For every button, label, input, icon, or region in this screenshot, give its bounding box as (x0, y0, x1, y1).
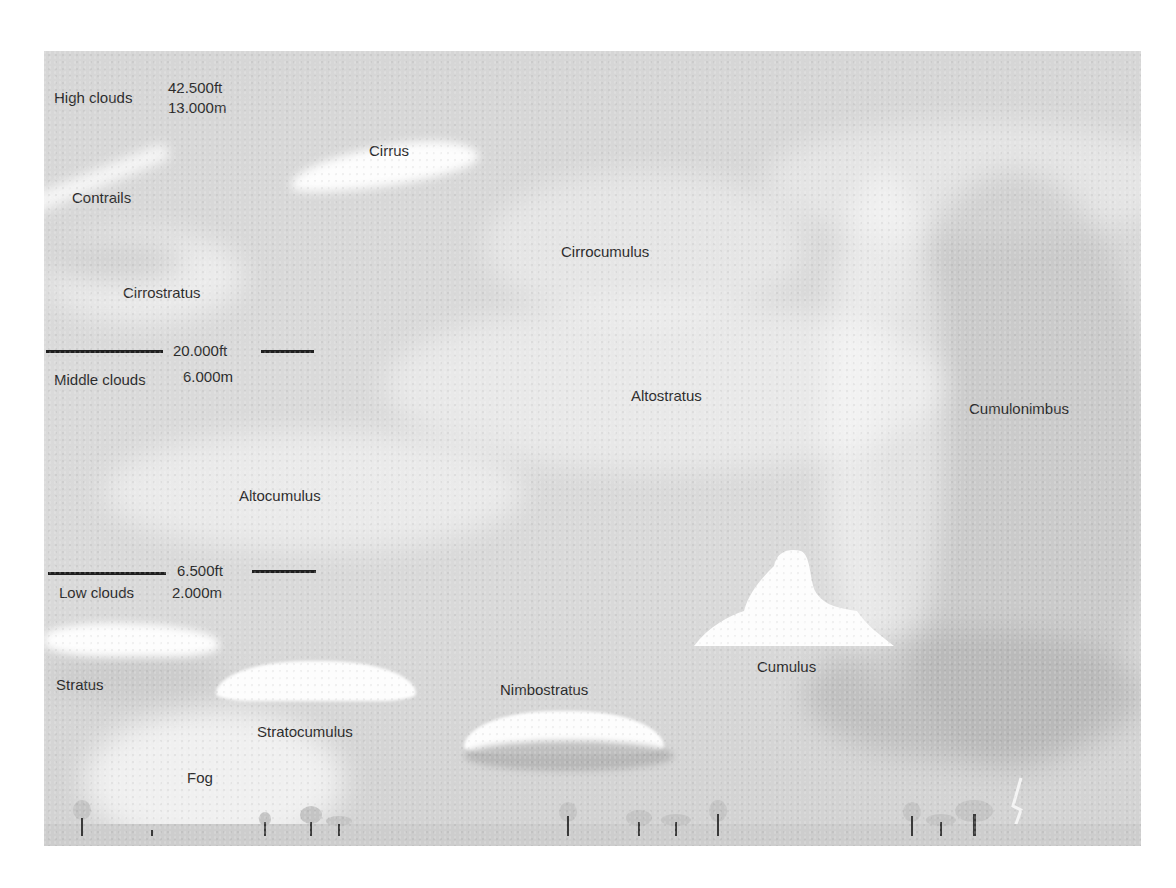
grain-overlay (44, 51, 1141, 846)
cloud-diagram: High clouds 42.500ft 13.000m 20.000ft Mi… (44, 51, 1141, 846)
